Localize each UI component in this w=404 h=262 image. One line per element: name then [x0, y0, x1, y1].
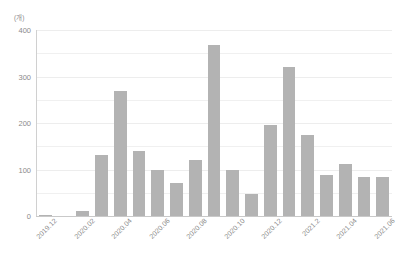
bar-slot	[148, 30, 167, 216]
bar-slot	[298, 30, 317, 216]
y-axis-tick-label: 100	[18, 165, 31, 174]
x-axis-tick-label: 2020.06	[148, 217, 171, 240]
y-axis-tick-label: 400	[18, 26, 31, 35]
x-axis-tick-label: 2021.2	[301, 217, 321, 237]
bar-slot	[36, 30, 55, 216]
bar-slot	[355, 30, 374, 216]
bar[interactable]	[376, 177, 389, 216]
x-axis-labels-group: 2019.122020.022020.042020.062020.082020.…	[36, 217, 392, 262]
bar[interactable]	[358, 177, 371, 216]
x-axis-tick-label: 2020.08	[185, 217, 208, 240]
bar-slot	[261, 30, 280, 216]
y-axis-tick-label: 0	[27, 212, 31, 221]
bar-slot	[167, 30, 186, 216]
bar-slot	[205, 30, 224, 216]
bar-slot	[280, 30, 299, 216]
bar[interactable]	[245, 194, 258, 216]
bar[interactable]	[339, 164, 352, 216]
x-axis-tick-label: 2020.02	[73, 217, 96, 240]
x-axis-tick-label: 2020.12	[260, 217, 283, 240]
bar-slot	[111, 30, 130, 216]
bar[interactable]	[151, 170, 164, 217]
bar-slot	[373, 30, 392, 216]
y-axis-tick-label: 200	[18, 119, 31, 128]
bar-slot	[73, 30, 92, 216]
bars-group	[36, 30, 392, 216]
x-axis-tick-label: 2021.04	[335, 217, 358, 240]
bar[interactable]	[226, 170, 239, 216]
bar[interactable]	[76, 211, 89, 216]
bar-slot	[186, 30, 205, 216]
bar[interactable]	[95, 155, 108, 216]
bar-slot	[130, 30, 149, 216]
plot-area: 0100200300400	[36, 30, 392, 216]
x-axis-tick-label: 2019.12	[35, 217, 58, 240]
x-axis-tick-label: 2020.10	[223, 217, 246, 240]
bar-slot	[242, 30, 261, 216]
y-axis-tick-label: 300	[18, 72, 31, 81]
bar[interactable]	[114, 91, 127, 216]
bar[interactable]	[301, 135, 314, 216]
bar[interactable]	[283, 67, 296, 216]
bar[interactable]	[170, 183, 183, 216]
bar[interactable]	[264, 125, 277, 216]
bar-slot	[317, 30, 336, 216]
bar-slot	[55, 30, 74, 216]
y-axis-unit-label: (개)	[14, 12, 24, 22]
bar-slot	[223, 30, 242, 216]
bar[interactable]	[39, 215, 52, 216]
bar[interactable]	[133, 151, 146, 216]
x-axis-tick-label: 2020.04	[110, 217, 133, 240]
x-axis-tick-label: 2021.06	[373, 217, 396, 240]
bar[interactable]	[189, 160, 202, 216]
bar[interactable]	[208, 45, 221, 216]
bar-slot	[336, 30, 355, 216]
bar-chart: (개) 0100200300400 2019.122020.022020.042…	[0, 0, 404, 262]
bar[interactable]	[320, 175, 333, 216]
bar-slot	[92, 30, 111, 216]
